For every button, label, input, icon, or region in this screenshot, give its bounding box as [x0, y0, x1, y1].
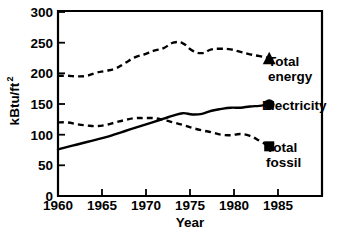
legend-label-total-fossil-line2: fossil — [266, 155, 301, 170]
y-axis-tick-labels: 0 50 100 150 200 250 300 — [30, 5, 53, 204]
y-tick-label-100: 100 — [30, 128, 53, 143]
x-tick-label-1980: 1980 — [219, 198, 249, 213]
y-tick-label-50: 50 — [38, 158, 53, 173]
y-tick-label-300: 300 — [30, 5, 53, 20]
legend-total-energy: Total energy — [268, 54, 313, 84]
x-axis-tick-labels: 1960 1965 1970 1975 1980 1985 — [43, 198, 294, 213]
y-tick-label-200: 200 — [30, 66, 53, 81]
y-axis-title: kBtu/ft 2 — [5, 76, 22, 125]
x-tick-label-1965: 1965 — [87, 198, 118, 213]
y-axis-title-base: kBtu/ft — [7, 82, 22, 125]
legend-label-total-energy-line1: Total — [268, 54, 299, 69]
x-axis-title: Year — [176, 215, 205, 230]
legend-electricity: Electricity — [262, 98, 327, 113]
legend-label-electricity: Electricity — [262, 98, 327, 113]
legend-total-fossil: Total fossil — [266, 140, 301, 170]
x-tick-label-1970: 1970 — [131, 198, 161, 213]
legend-label-total-fossil-line1: Total — [266, 140, 297, 155]
figure-container: 0 50 100 150 200 250 300 kBtu/ft 2 1960 … — [0, 0, 346, 239]
caption-stub — [44, 226, 104, 235]
x-tick-label-1985: 1985 — [263, 198, 294, 213]
line-chart: 0 50 100 150 200 250 300 kBtu/ft 2 1960 … — [0, 0, 346, 239]
series-line-electricity — [58, 105, 269, 150]
legend-label-total-energy-line2: energy — [268, 69, 313, 84]
x-tick-label-1960: 1960 — [43, 198, 73, 213]
x-tick-label-1975: 1975 — [175, 198, 206, 213]
y-axis-title-superscript: 2 — [5, 76, 15, 81]
y-tick-label-250: 250 — [30, 36, 53, 51]
y-tick-label-150: 150 — [30, 97, 53, 112]
series-line-total-energy — [58, 42, 269, 77]
